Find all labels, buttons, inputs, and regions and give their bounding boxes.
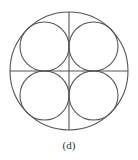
- inner-circle-top-left: [20, 22, 69, 71]
- inner-circle-bottom-left: [20, 71, 69, 120]
- figure-caption: (d): [0, 139, 138, 151]
- inner-circle-top-right: [69, 22, 118, 71]
- circle-diagram: [0, 0, 138, 160]
- inner-circle-bottom-right: [69, 71, 118, 120]
